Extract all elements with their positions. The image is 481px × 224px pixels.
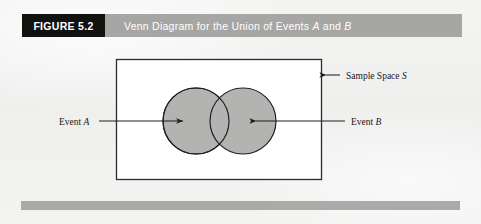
event-a-label-prefix: Event [59, 117, 84, 127]
event-a-label: Event A [59, 117, 90, 127]
sample-space-label: Sample Space S [346, 71, 407, 81]
venn-diagram: Sample Space S Event B Event A [0, 0, 481, 224]
event-a-label-symbol: A [83, 117, 90, 127]
event-b-label-symbol: B [376, 117, 382, 127]
sample-space-label-prefix: Sample Space [346, 71, 402, 81]
event-b-label-prefix: Event [351, 117, 376, 127]
event-b-label: Event B [351, 117, 382, 127]
bottom-rule-bar [21, 201, 460, 210]
sample-space-label-symbol: S [402, 71, 407, 81]
